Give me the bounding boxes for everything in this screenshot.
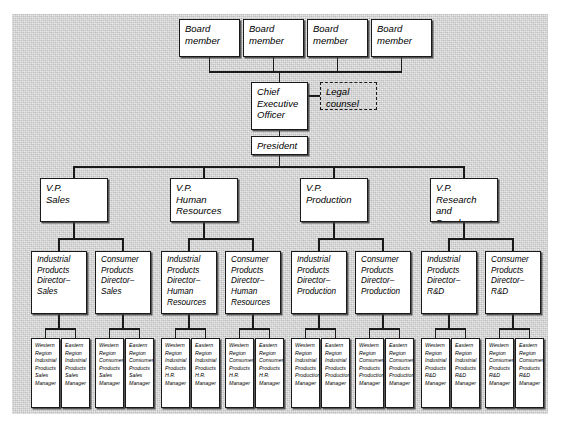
vp-box[interactable]: V.P. Research and Development bbox=[430, 178, 498, 222]
manager-box[interactable]: Western Region Industrial Products Sales… bbox=[31, 338, 60, 408]
manager-box-label: Eastern Region Industrial Products H.R. … bbox=[192, 339, 219, 387]
manager-box[interactable]: Western Region Consumer Products Product… bbox=[355, 338, 384, 408]
vp-box[interactable]: V.P. Sales bbox=[40, 178, 108, 222]
connector-vertical bbox=[188, 238, 190, 251]
vp-box[interactable]: V.P. Production bbox=[300, 178, 368, 222]
connector-vertical bbox=[333, 222, 335, 238]
manager-box[interactable]: Western Region Industrial Products Produ… bbox=[291, 338, 320, 408]
manager-box[interactable]: Eastern Region Industrial Products H.R. … bbox=[191, 338, 220, 408]
connector-vertical bbox=[175, 328, 177, 338]
manager-box-label: Western Region Industrial Products H.R. … bbox=[162, 339, 189, 387]
connector-vertical bbox=[401, 57, 403, 71]
manager-box-label: Western Region Industrial Products Produ… bbox=[292, 339, 319, 387]
director-box-label: Consumer Products Director– Human Resour… bbox=[226, 252, 280, 308]
connector-vertical bbox=[318, 314, 320, 328]
connector-vertical bbox=[203, 166, 205, 178]
manager-box-label: Eastern Region Industrial Products R&D M… bbox=[452, 339, 479, 387]
manager-box[interactable]: Eastern Region Consumer Products H.R. Ma… bbox=[255, 338, 284, 408]
manager-box[interactable]: Eastern Region Consumer Products Product… bbox=[385, 338, 414, 408]
board-member-box[interactable]: Board member bbox=[371, 19, 432, 57]
connector-vertical bbox=[205, 328, 207, 338]
director-box[interactable]: Consumer Products Director– R&D bbox=[485, 251, 541, 314]
manager-box-label: Western Region Industrial Products Sales… bbox=[32, 339, 59, 387]
board-member-box-label: Board member bbox=[244, 20, 303, 46]
director-box[interactable]: Industrial Products Director– Human Reso… bbox=[161, 251, 217, 314]
manager-box[interactable]: Eastern Region Consumer Products Sales M… bbox=[125, 338, 154, 408]
board-member-box-label: Board member bbox=[308, 20, 367, 46]
manager-box[interactable]: Western Region Consumer Products Sales M… bbox=[95, 338, 124, 408]
manager-box[interactable]: Eastern Region Industrial Products Sales… bbox=[61, 338, 90, 408]
director-box-label: Consumer Products Director– R&D bbox=[486, 252, 540, 298]
manager-box-label: Eastern Region Consumer Products H.R. Ma… bbox=[256, 339, 283, 387]
manager-box[interactable]: Western Region Industrial Products R&D M… bbox=[421, 338, 450, 408]
connector-vertical bbox=[382, 314, 384, 328]
connector-vertical bbox=[239, 328, 241, 338]
connector-vertical bbox=[75, 328, 77, 338]
connector-vertical bbox=[209, 57, 211, 71]
connector-vertical bbox=[45, 328, 47, 338]
vp-box-label: V.P. Research and Development bbox=[431, 179, 497, 222]
connector-vertical bbox=[337, 57, 339, 71]
vp-box-label: V.P. Human Resources bbox=[171, 179, 237, 217]
president-box[interactable]: President bbox=[251, 136, 308, 155]
director-box[interactable]: Industrial Products Director– R&D bbox=[421, 251, 477, 314]
connector-vertical bbox=[529, 328, 531, 338]
connector-horizontal bbox=[369, 328, 401, 330]
director-box[interactable]: Industrial Products Director– Sales bbox=[31, 251, 87, 314]
connector-vertical bbox=[279, 155, 281, 166]
director-box[interactable]: Consumer Products Director– Human Resour… bbox=[225, 251, 281, 314]
connector-vertical bbox=[448, 314, 450, 328]
ceo-box[interactable]: Chief Executive Officer bbox=[251, 82, 308, 130]
connector-vertical bbox=[499, 328, 501, 338]
manager-box[interactable]: Western Region Industrial Products H.R. … bbox=[161, 338, 190, 408]
connector-vertical bbox=[512, 314, 514, 328]
connector-horizontal bbox=[73, 166, 465, 168]
director-box[interactable]: Consumer Products Director– Production bbox=[355, 251, 411, 314]
connector-vertical bbox=[203, 222, 205, 238]
director-box[interactable]: Consumer Products Director– Sales bbox=[95, 251, 151, 314]
connector-horizontal bbox=[209, 71, 403, 73]
president-box-label: President bbox=[252, 137, 307, 152]
connector-horizontal bbox=[239, 328, 271, 330]
board-member-box[interactable]: Board member bbox=[243, 19, 304, 57]
manager-box[interactable]: Western Region Consumer Products H.R. Ma… bbox=[225, 338, 254, 408]
connector-vertical bbox=[333, 166, 335, 178]
director-box[interactable]: Industrial Products Director– Production bbox=[291, 251, 347, 314]
connector-vertical bbox=[463, 222, 465, 238]
connector-vertical bbox=[399, 328, 401, 338]
ceo-box-label: Chief Executive Officer bbox=[252, 83, 307, 121]
connector-vertical bbox=[273, 57, 275, 71]
manager-box-label: Eastern Region Industrial Products Sales… bbox=[62, 339, 89, 387]
connector-vertical bbox=[512, 238, 514, 251]
manager-box[interactable]: Western Region Consumer Products R&D Man… bbox=[485, 338, 514, 408]
connector-vertical bbox=[252, 314, 254, 328]
board-member-box-label: Board member bbox=[372, 20, 431, 46]
director-box-label: Industrial Products Director– R&D bbox=[422, 252, 476, 298]
connector-vertical bbox=[465, 328, 467, 338]
connector-vertical bbox=[109, 328, 111, 338]
manager-box[interactable]: Eastern Region Industrial Products R&D M… bbox=[451, 338, 480, 408]
connector-horizontal bbox=[109, 328, 141, 330]
connector-horizontal bbox=[448, 238, 514, 240]
manager-box[interactable]: Eastern Region Industrial Products Produ… bbox=[321, 338, 350, 408]
connector-vertical bbox=[122, 314, 124, 328]
legal-counsel-box[interactable]: Legal counsel bbox=[320, 82, 377, 110]
connector-vertical bbox=[463, 166, 465, 178]
connector-horizontal bbox=[45, 328, 77, 330]
connector-horizontal bbox=[305, 328, 337, 330]
manager-box-label: Western Region Consumer Products Product… bbox=[356, 339, 383, 387]
manager-box-label: Western Region Industrial Products R&D M… bbox=[422, 339, 449, 387]
board-member-box[interactable]: Board member bbox=[307, 19, 368, 57]
manager-box-label: Western Region Consumer Products R&D Man… bbox=[486, 339, 513, 387]
director-box-label: Consumer Products Director– Production bbox=[356, 252, 410, 298]
vp-box[interactable]: V.P. Human Resources bbox=[170, 178, 238, 222]
connector-vertical bbox=[269, 328, 271, 338]
connector-vertical bbox=[122, 238, 124, 251]
connector-vertical bbox=[139, 328, 141, 338]
org-chart-canvas: Board memberBoard memberBoard memberBoar… bbox=[0, 0, 561, 425]
board-member-box[interactable]: Board member bbox=[179, 19, 240, 57]
connector-horizontal bbox=[435, 328, 467, 330]
connector-vertical bbox=[448, 238, 450, 251]
manager-box[interactable]: Eastern Region Consumer Products R&D Man… bbox=[515, 338, 544, 408]
connector-vertical bbox=[318, 238, 320, 251]
